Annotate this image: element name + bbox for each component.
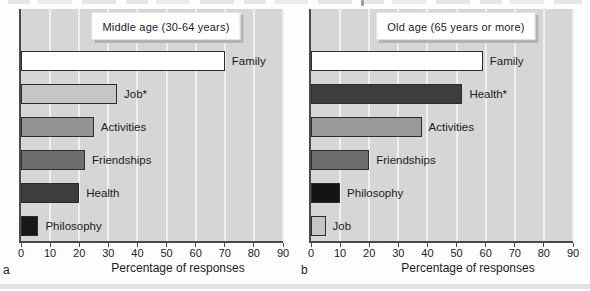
bar-row: Friendships xyxy=(311,150,573,170)
tick-label-50: 50 xyxy=(450,247,462,259)
bar-label: Job xyxy=(333,216,352,236)
tick-label-60: 60 xyxy=(480,247,492,259)
bar-label: Philosophy xyxy=(45,216,101,236)
bar-row: Health* xyxy=(311,84,573,104)
bars: FamilyJob*ActivitiesFriendshipsHealthPhi… xyxy=(21,9,283,241)
chart-title: Middle age (30-64 years) xyxy=(102,21,229,33)
bar-job xyxy=(311,216,326,236)
bar-row: Health xyxy=(21,183,283,203)
bar-row: Activities xyxy=(21,117,283,137)
tick-label-0: 0 xyxy=(308,247,314,259)
bar-health xyxy=(21,183,79,203)
bar-family xyxy=(21,51,225,71)
plot-area: Old age (65 years or more) FamilyHealth*… xyxy=(309,9,573,243)
bar-label: Friendships xyxy=(92,150,151,170)
bar-label: Job* xyxy=(124,84,147,104)
plot-area: Middle age (30-64 years) FamilyJob*Activ… xyxy=(19,9,283,243)
bar-health xyxy=(311,84,462,104)
bar-job xyxy=(21,84,117,104)
tick-label-70: 70 xyxy=(509,247,521,259)
bar-row: Family xyxy=(311,51,573,71)
bar-activities xyxy=(311,117,422,137)
tick-label-40: 40 xyxy=(131,247,143,259)
tick-label-80: 80 xyxy=(248,247,260,259)
tick-label-50: 50 xyxy=(160,247,172,259)
bar-family xyxy=(311,51,483,71)
bar-row: Job xyxy=(311,216,573,236)
tick-label-80: 80 xyxy=(538,247,550,259)
tick-label-10: 10 xyxy=(334,247,346,259)
tick-label-30: 30 xyxy=(392,247,404,259)
tick-label-0: 0 xyxy=(18,247,24,259)
page-rule xyxy=(0,284,590,289)
bar-activities xyxy=(21,117,94,137)
tick-label-60: 60 xyxy=(190,247,202,259)
tick-label-30: 30 xyxy=(102,247,114,259)
bar-label: Health* xyxy=(469,84,507,104)
tick-label-10: 10 xyxy=(44,247,56,259)
chart-title-box: Middle age (30-64 years) xyxy=(91,12,240,40)
x-axis-label: Percentage of responses xyxy=(401,261,534,275)
bars: FamilyHealth*ActivitiesFriendshipsPhilos… xyxy=(311,9,573,241)
tick-label-40: 40 xyxy=(421,247,433,259)
bar-row: Activities xyxy=(311,117,573,137)
tick-label-90: 90 xyxy=(277,247,289,259)
tick-label-20: 20 xyxy=(73,247,85,259)
x-axis-label: Percentage of responses xyxy=(111,261,244,275)
bar-philosophy xyxy=(21,216,38,236)
bar-friendships xyxy=(311,150,369,170)
bar-label: Philosophy xyxy=(347,183,403,203)
bar-row: Family xyxy=(21,51,283,71)
chart-panel-middle-age: Middle age (30-64 years) FamilyJob*Activ… xyxy=(0,0,290,284)
bar-label: Friendships xyxy=(376,150,435,170)
panel-letter-b: b xyxy=(301,263,308,277)
chart-panel-old-age: Old age (65 years or more) FamilyHealth*… xyxy=(290,0,580,284)
bar-row: Philosophy xyxy=(311,183,573,203)
chart-title: Old age (65 years or more) xyxy=(387,21,524,33)
bar-label: Activities xyxy=(101,117,146,137)
tick-label-20: 20 xyxy=(363,247,375,259)
tick-label-90: 90 xyxy=(567,247,579,259)
bar-friendships xyxy=(21,150,85,170)
bar-label: Activities xyxy=(429,117,474,137)
bar-row: Job* xyxy=(21,84,283,104)
chart-title-box: Old age (65 years or more) xyxy=(376,12,535,40)
panel-letter-a: a xyxy=(3,263,10,277)
bar-label: Family xyxy=(232,51,266,71)
bar-label: Health xyxy=(86,183,119,203)
bar-label: Family xyxy=(490,51,524,71)
bar-row: Friendships xyxy=(21,150,283,170)
tick-label-70: 70 xyxy=(219,247,231,259)
bar-philosophy xyxy=(311,183,340,203)
two-panel-bar-chart-figure: Middle age (30-64 years) FamilyJob*Activ… xyxy=(0,0,590,291)
bar-row: Philosophy xyxy=(21,216,283,236)
